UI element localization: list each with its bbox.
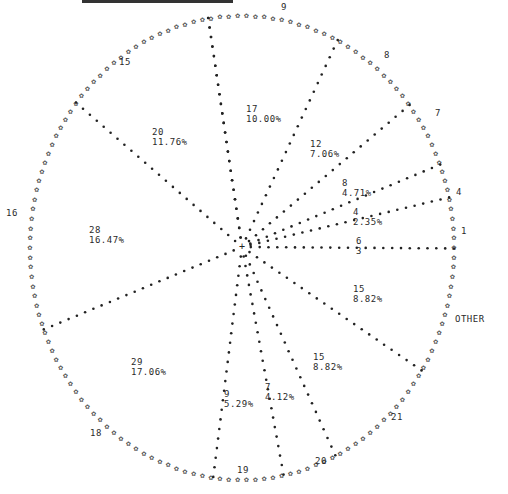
svg-text:✿: ✿ bbox=[253, 12, 258, 21]
category-label: 20 bbox=[315, 456, 327, 466]
svg-text:✿: ✿ bbox=[174, 22, 179, 31]
svg-text:✿: ✿ bbox=[440, 167, 445, 176]
category-label: 15 bbox=[119, 57, 131, 67]
svg-text:✿: ✿ bbox=[368, 58, 373, 67]
slice-count: 9 bbox=[224, 389, 254, 399]
svg-text:✿: ✿ bbox=[119, 434, 124, 443]
slice-label: 158.82% bbox=[313, 352, 343, 372]
svg-text:✿: ✿ bbox=[353, 47, 358, 56]
svg-text:✿: ✿ bbox=[79, 91, 84, 100]
svg-text:✿: ✿ bbox=[28, 243, 33, 252]
svg-text:✿: ✿ bbox=[394, 84, 399, 93]
svg-text:✿: ✿ bbox=[37, 176, 42, 185]
svg-text:✿: ✿ bbox=[313, 26, 318, 35]
svg-text:✿: ✿ bbox=[98, 71, 103, 80]
svg-text:✿: ✿ bbox=[450, 272, 455, 281]
svg-text:✿: ✿ bbox=[433, 149, 438, 158]
svg-text:✿: ✿ bbox=[279, 15, 284, 24]
svg-text:✿: ✿ bbox=[28, 233, 33, 242]
svg-text:✿: ✿ bbox=[134, 444, 139, 453]
slice-percent: 8.82% bbox=[353, 294, 383, 304]
category-label: OTHER bbox=[455, 314, 485, 324]
svg-text:✿: ✿ bbox=[63, 115, 68, 124]
svg-text:✿: ✿ bbox=[449, 204, 454, 213]
svg-text:✿: ✿ bbox=[31, 282, 36, 291]
svg-text:✿: ✿ bbox=[253, 475, 258, 484]
svg-text:✿: ✿ bbox=[288, 17, 293, 26]
svg-text:✿: ✿ bbox=[217, 474, 222, 483]
slice-percent: 11.76% bbox=[152, 137, 188, 147]
svg-text:✿: ✿ bbox=[388, 77, 393, 86]
slice-count: 12 bbox=[310, 139, 340, 149]
category-label: 18 bbox=[90, 428, 102, 438]
category-label: 1 bbox=[461, 226, 467, 236]
category-label: 4 bbox=[456, 187, 462, 197]
svg-text:✿: ✿ bbox=[104, 422, 109, 431]
svg-text:✿: ✿ bbox=[447, 195, 452, 204]
svg-text:✿: ✿ bbox=[46, 337, 51, 346]
svg-text:✿: ✿ bbox=[98, 415, 103, 424]
svg-text:✿: ✿ bbox=[322, 29, 327, 38]
svg-text:✿: ✿ bbox=[126, 47, 131, 56]
pie-chart: ✿✿✿✿✿✿✿✿✿✿✿✿✿✿✿✿✿✿✿✿✿✿✿✿✿✿✿✿✿✿✿✿✿✿✿✿✿✿✿✿… bbox=[0, 0, 508, 494]
svg-text:✿: ✿ bbox=[34, 185, 39, 194]
slice-count: 17 bbox=[246, 104, 282, 114]
svg-text:✿: ✿ bbox=[28, 262, 33, 271]
svg-text:✿: ✿ bbox=[68, 379, 73, 388]
svg-text:✿: ✿ bbox=[39, 167, 44, 176]
slice-label: 2917.06% bbox=[131, 357, 167, 377]
svg-text:✿: ✿ bbox=[39, 319, 44, 328]
svg-text:✿: ✿ bbox=[437, 328, 442, 337]
svg-text:✿: ✿ bbox=[346, 444, 351, 453]
svg-text:✿: ✿ bbox=[443, 176, 448, 185]
svg-text:✿: ✿ bbox=[54, 355, 59, 364]
svg-text:✿: ✿ bbox=[166, 460, 171, 469]
slice-label: 2011.76% bbox=[152, 127, 188, 147]
svg-text:✿: ✿ bbox=[451, 253, 456, 262]
svg-text:✿: ✿ bbox=[111, 58, 116, 67]
svg-text:✿: ✿ bbox=[37, 310, 42, 319]
svg-text:✿: ✿ bbox=[217, 12, 222, 21]
svg-text:✿: ✿ bbox=[361, 434, 366, 443]
svg-text:✿: ✿ bbox=[31, 204, 36, 213]
svg-text:✿: ✿ bbox=[29, 272, 34, 281]
svg-text:✿: ✿ bbox=[28, 253, 33, 262]
svg-text:✿: ✿ bbox=[451, 224, 456, 233]
svg-text:✿: ✿ bbox=[32, 195, 37, 204]
svg-text:✿: ✿ bbox=[54, 131, 59, 140]
svg-text:✿: ✿ bbox=[32, 291, 37, 300]
svg-text:✿: ✿ bbox=[42, 158, 47, 167]
category-label: 9 bbox=[281, 2, 287, 12]
svg-text:✿: ✿ bbox=[226, 12, 231, 21]
svg-text:✿: ✿ bbox=[450, 214, 455, 223]
svg-text:✿: ✿ bbox=[157, 29, 162, 38]
svg-text:✿: ✿ bbox=[85, 84, 90, 93]
slice-label: 84.71% bbox=[342, 178, 372, 198]
svg-text:✿: ✿ bbox=[111, 428, 116, 437]
svg-text:✿: ✿ bbox=[406, 99, 411, 108]
svg-text:✿: ✿ bbox=[338, 449, 343, 458]
slice-percent: 4.12% bbox=[265, 392, 295, 402]
slice-count: 15 bbox=[353, 284, 383, 294]
svg-text:✿: ✿ bbox=[381, 415, 386, 424]
svg-text:✿: ✿ bbox=[58, 363, 63, 372]
slice-percent: 4.71% bbox=[342, 188, 372, 198]
svg-text:✿: ✿ bbox=[91, 409, 96, 418]
svg-text:✿: ✿ bbox=[346, 42, 351, 51]
svg-text:✿: ✿ bbox=[244, 11, 249, 20]
svg-text:✿: ✿ bbox=[73, 387, 78, 396]
svg-text:✿: ✿ bbox=[104, 64, 109, 73]
svg-text:✿: ✿ bbox=[440, 319, 445, 328]
slice-percent: 2.35% bbox=[353, 217, 383, 227]
svg-text:✿: ✿ bbox=[34, 301, 39, 310]
svg-text:✿: ✿ bbox=[394, 402, 399, 411]
svg-text:✿: ✿ bbox=[445, 301, 450, 310]
category-label: 16 bbox=[6, 208, 18, 218]
svg-text:✿: ✿ bbox=[368, 428, 373, 437]
svg-text:✿: ✿ bbox=[50, 140, 55, 149]
slice-count: 28 bbox=[89, 225, 125, 235]
svg-text:✿: ✿ bbox=[191, 469, 196, 478]
slice-label: 42.35% bbox=[353, 207, 383, 227]
slice-label: 63 bbox=[356, 236, 362, 256]
slice-percent: 16.47% bbox=[89, 235, 125, 245]
